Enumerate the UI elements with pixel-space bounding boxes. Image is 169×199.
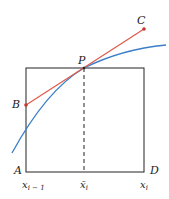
label-d: D	[149, 164, 159, 177]
rectangle	[26, 68, 144, 172]
tangent-line	[26, 29, 144, 105]
point-b	[24, 103, 28, 107]
label-b: B	[11, 98, 20, 111]
label-c: C	[137, 14, 146, 27]
label-a: A	[13, 164, 22, 177]
label-x-left: xi − 1	[22, 179, 45, 192]
label-x-right: xi	[140, 179, 148, 192]
trapezoid-tangent-diagram: C P B A D xi − 1 x̄i xi	[0, 0, 169, 199]
label-x-bar: x̄i	[80, 179, 88, 192]
point-p	[83, 67, 86, 70]
label-p: P	[77, 54, 86, 67]
point-c	[142, 27, 146, 31]
